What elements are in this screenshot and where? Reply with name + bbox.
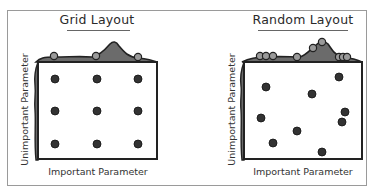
data-point	[293, 127, 301, 135]
data-point	[341, 108, 349, 116]
data-point	[134, 107, 142, 115]
data-point	[134, 75, 142, 83]
marginal-point	[309, 44, 316, 51]
marginal-point	[293, 53, 300, 60]
data-point	[51, 75, 59, 83]
grid-panel	[35, 42, 157, 160]
data-point	[134, 140, 142, 148]
data-point	[338, 118, 346, 126]
grid-marginal-point	[134, 53, 141, 60]
random-panel	[241, 38, 362, 160]
diagram-plots	[0, 0, 376, 194]
data-point	[308, 90, 316, 98]
marginal-point	[269, 52, 276, 59]
data-point	[93, 75, 101, 83]
data-point	[269, 139, 277, 147]
data-point	[335, 73, 343, 81]
marginal-point	[318, 38, 325, 45]
data-point	[51, 107, 59, 115]
data-point	[51, 140, 59, 148]
marginal-point	[262, 52, 269, 59]
grid-marginal-point	[50, 52, 57, 59]
marginal-point	[343, 53, 350, 60]
grid-marginal-point	[92, 52, 99, 59]
data-point	[257, 114, 265, 122]
data-point	[93, 107, 101, 115]
data-point	[93, 140, 101, 148]
data-point	[318, 148, 326, 156]
data-point	[262, 83, 270, 91]
